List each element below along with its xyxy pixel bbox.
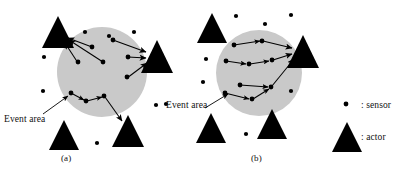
- sensor-dot: [69, 91, 74, 96]
- event-area-circle-b: [216, 30, 302, 116]
- sensor-dot: [260, 39, 265, 44]
- sensor-dot: [84, 99, 89, 104]
- sensor-dot: [90, 45, 95, 50]
- sensor-dot: [42, 55, 46, 59]
- sensor-dot: [125, 75, 130, 80]
- legend-label-actor: : actor: [361, 132, 386, 142]
- actor-triangle: [141, 40, 173, 73]
- event-area-label-a: Event area: [4, 114, 45, 124]
- actor-triangle: [49, 120, 79, 150]
- sensor-dot: [224, 59, 229, 64]
- sensor-dot: [289, 89, 293, 93]
- sensor-dot: [232, 43, 237, 48]
- sensor-dot: [107, 34, 111, 38]
- event-area-pointer-b: [205, 94, 228, 108]
- sensor-dot: [126, 55, 131, 60]
- sensor-dot: [41, 89, 45, 93]
- sensor-dot: [247, 62, 252, 67]
- sensor-dot: [102, 94, 107, 99]
- panel-b: [164, 13, 319, 143]
- legend-sensor-dot: [344, 102, 349, 107]
- event-area-label-b: Event area: [166, 100, 207, 110]
- panel-caption-b: (b): [251, 153, 262, 163]
- legend-symbols: [332, 102, 362, 152]
- sensor-dot: [263, 22, 267, 26]
- actor-triangle: [196, 113, 226, 143]
- sensor-dot: [289, 13, 293, 17]
- sensor-dot: [270, 58, 275, 63]
- actor-triangle: [197, 13, 227, 43]
- panel-a: [41, 16, 173, 150]
- figure-container: Event area Event area (a) (b) : sensor :…: [0, 0, 410, 174]
- sensor-dot: [101, 60, 106, 65]
- legend-label-sensor: : sensor: [361, 100, 391, 110]
- actor-triangle: [112, 115, 144, 147]
- sensor-dot: [83, 30, 87, 34]
- actor-triangle: [42, 16, 74, 48]
- sensor-dot: [238, 83, 243, 88]
- sensor-dot: [201, 80, 205, 84]
- sensor-dot: [234, 14, 238, 18]
- sensor-dot: [154, 103, 158, 107]
- sensor-dot: [95, 141, 99, 145]
- sensor-dot: [132, 30, 136, 34]
- event-area-pointer-a: [43, 96, 68, 114]
- sensor-dot: [244, 132, 248, 136]
- panel-caption-a: (a): [61, 153, 71, 163]
- sensor-dot: [204, 57, 208, 61]
- sensor-dot: [76, 60, 81, 65]
- sensor-dot: [111, 38, 116, 43]
- legend-actor-triangle: [332, 122, 362, 152]
- figure-canvas: [0, 0, 410, 174]
- sensor-dot: [250, 97, 255, 102]
- sensor-dot: [269, 85, 274, 90]
